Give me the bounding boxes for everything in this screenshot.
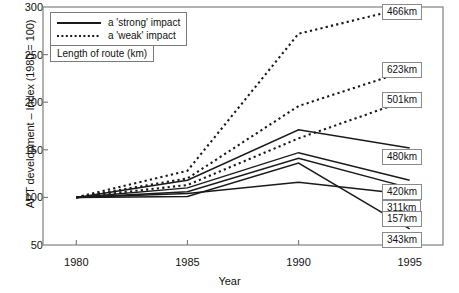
legend: a 'strong' impact a 'weak' impact bbox=[50, 12, 187, 46]
series-end-label-480km: 480km bbox=[382, 149, 422, 165]
series-end-label-157km: 157km bbox=[382, 211, 422, 227]
legend-item-weak: a 'weak' impact bbox=[56, 29, 180, 42]
solid-line-swatch-icon bbox=[56, 18, 102, 28]
series-end-label-420km: 420km bbox=[382, 184, 422, 200]
legend-item-strong: a 'strong' impact bbox=[56, 16, 180, 29]
dotted-line-swatch-icon bbox=[56, 31, 102, 41]
legend-label-strong: a 'strong' impact bbox=[108, 17, 180, 28]
series-end-label-343km: 343km bbox=[382, 232, 422, 248]
series-end-label-623km: 623km bbox=[382, 62, 422, 78]
length-of-route-box: Length of route (km) bbox=[50, 45, 154, 62]
tick-marks bbox=[43, 55, 410, 245]
series-line-623km bbox=[76, 70, 409, 198]
series-line-501km bbox=[76, 99, 409, 197]
series-end-label-466km: 466km bbox=[382, 4, 422, 20]
series-end-label-501km: 501km bbox=[382, 92, 422, 108]
chart-figure: APT development – Index (1980 = 100) 501… bbox=[0, 0, 459, 293]
legend-label-weak: a 'weak' impact bbox=[108, 30, 176, 41]
